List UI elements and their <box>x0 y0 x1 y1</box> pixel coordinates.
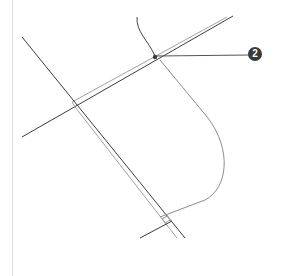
callout-badge-label: 2 <box>252 48 258 59</box>
road-cross-edge-light <box>75 107 177 238</box>
road-main-end-cap <box>72 102 75 107</box>
curve-path <box>160 60 224 217</box>
callout-point <box>153 55 157 59</box>
callout-leader <box>157 55 250 56</box>
callout-badge-2: 2 <box>248 47 262 61</box>
road-cross-edge-dark <box>22 37 185 238</box>
road-main-edge-light <box>72 17 227 102</box>
road-lower-short <box>140 221 172 238</box>
crossing-marker <box>162 216 170 223</box>
intersection-diagram <box>0 0 281 276</box>
curve-top <box>137 17 155 56</box>
